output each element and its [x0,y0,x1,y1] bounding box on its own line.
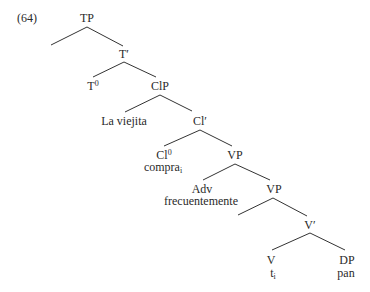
branch-clp-clbar [160,95,192,111]
syntax-tree: (64) TP T′ T0 ClP La viejita Cl′ Cl0 com… [0,0,370,292]
branch-clp-spec [125,95,160,112]
branch-vp2-spec [238,198,273,215]
branch-tp-tbar [87,27,123,46]
branch-tbar-clp [124,62,156,77]
node-tp: TP [80,12,94,24]
branch-clbar-vp [200,130,232,146]
node-cl0-word-sub: i [180,166,182,175]
node-adv-word: frecuentemente [164,195,238,207]
node-vp2: VP [266,183,281,195]
branch-clbar-cl0 [164,130,200,146]
node-cl-bar: Cl′ [193,115,207,127]
node-cl0-word-label: compra [144,160,180,174]
node-t0: T0 [87,80,98,92]
node-cl0-sup: 0 [168,148,172,157]
branch-vp-adv [203,164,235,180]
branch-vbar-v [272,233,310,250]
branch-tbar-t0 [93,62,124,77]
node-v-trace: ti [270,267,276,279]
node-spec-clp: La viejita [101,115,147,127]
node-v-bar: V′ [304,219,315,231]
node-clp: ClP [151,80,169,92]
node-cl0-word: comprai [144,161,182,173]
tree-branches [0,0,370,292]
node-dp-word: pan [337,267,354,279]
branch-vp-vp [235,164,270,180]
node-dp: DP [339,254,354,266]
node-v: V [267,254,276,266]
node-vp1: VP [227,149,242,161]
example-number: (64) [17,12,37,24]
node-v-trace-sub: i [274,272,276,281]
node-t0-sup: 0 [95,79,99,88]
branch-vp2-vbar [273,198,307,216]
node-t-bar: T′ [119,48,129,60]
branch-vbar-dp [310,233,345,250]
branch-tp-spec [51,27,87,45]
